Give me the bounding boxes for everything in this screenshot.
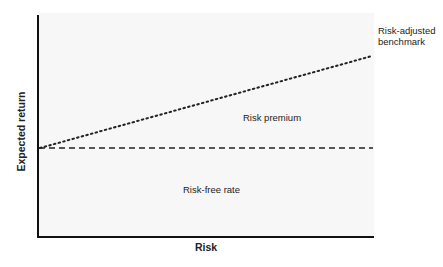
x-axis-title: Risk: [195, 242, 217, 253]
benchmark-label-line1: Risk-adjusted: [378, 25, 436, 36]
plot-area: [39, 13, 374, 236]
risk-free-rate-label: Risk-free rate: [183, 184, 240, 195]
chart-canvas: [0, 0, 443, 267]
benchmark-label-line2: benchmark: [378, 36, 425, 47]
risk-premium-label: Risk premium: [243, 112, 301, 123]
y-axis-title: Expected return: [16, 92, 27, 172]
